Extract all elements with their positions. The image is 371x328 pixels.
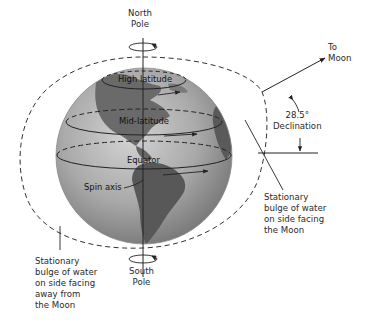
moon-direction-arrow — [262, 58, 325, 92]
south-pole-label: South Pole — [129, 266, 154, 288]
to-moon-label: To Moon — [328, 42, 351, 64]
declination-label: 28.5° Declination — [273, 110, 322, 132]
mid-latitude-label: Mid-latitude — [119, 116, 169, 127]
spin-axis-label: Spin axis — [84, 182, 122, 193]
far-bulge-label: Stationary bulge of water on side facing… — [35, 256, 97, 311]
near-bulge-label: Stationary bulge of water on side facing… — [264, 192, 326, 236]
north-pole-label: North Pole — [128, 8, 152, 30]
equator-label: Equator — [127, 155, 160, 166]
high-latitude-label: High latitude — [118, 74, 172, 85]
